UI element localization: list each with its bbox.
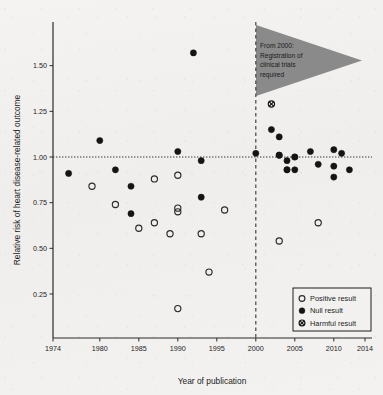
x-tick-label-1995: 1995 [209,344,225,353]
data-point-open-circle [89,183,95,189]
data-point-filled-circle [253,150,259,156]
data-point-open-circle [167,231,173,237]
data-point-cross-circle [268,101,274,107]
annotation-line-1: Registration of [260,52,303,60]
data-point-filled-circle [276,134,282,140]
annotation-line-0: From 2000: [260,42,294,49]
data-point-filled-circle [268,126,274,132]
data-point-filled-circle [175,148,181,154]
x-tick-label-1980: 1980 [92,344,108,353]
legend-marker-filled-circle [299,308,305,314]
legend-label-2: Harmful result [310,319,356,328]
annotation-line-2: clinical trials [260,61,296,68]
x-tick-label-2005: 2005 [287,344,303,353]
x-tick-label-2000: 2000 [248,344,264,353]
x-axis-title: Year of publication [178,376,247,386]
y-axis-title: Relative risk of heart disease-related o… [12,94,22,265]
data-point-open-circle [222,207,228,213]
x-tick-label-1985: 1985 [131,344,147,353]
legend-label-1: Null result [310,306,343,315]
data-point-filled-circle [128,211,134,217]
data-point-filled-circle [97,137,103,143]
data-point-filled-circle [66,170,72,176]
data-point-filled-circle [128,183,134,189]
data-point-filled-circle [112,167,118,173]
data-point-filled-circle [346,167,352,173]
x-tick-label-2014: 2014 [357,344,373,353]
data-point-filled-circle [315,161,321,167]
data-point-filled-circle [331,163,337,169]
data-point-filled-circle [292,167,298,173]
y-tick-label-0.50: 0.50 [33,244,47,253]
data-point-filled-circle [339,150,345,156]
data-point-open-circle [198,231,204,237]
y-tick-label-1.50: 1.50 [33,61,47,70]
annotation-line-3: required [260,71,285,79]
data-point-filled-circle [198,158,204,164]
data-point-filled-circle [284,158,290,164]
data-point-open-circle [206,269,212,275]
y-tick-label-1.00: 1.00 [33,153,47,162]
data-point-filled-circle [331,174,337,180]
data-point-open-circle [175,172,181,178]
data-point-open-circle [175,306,181,312]
data-point-open-circle [315,220,321,226]
y-tick-label-1.25: 1.25 [33,107,47,116]
scatter-plot: From 2000:Registration ofclinical trials… [0,0,383,395]
y-tick-label-0.75: 0.75 [33,198,47,207]
data-point-filled-circle [307,148,313,154]
legend-label-0: Positive result [310,294,356,303]
data-point-filled-circle [276,152,282,158]
x-tick-label-1990: 1990 [170,344,186,353]
data-point-filled-circle [284,167,290,173]
data-point-filled-circle [292,154,298,160]
chart-figure: From 2000:Registration ofclinical trials… [0,0,383,395]
data-point-filled-circle [198,194,204,200]
data-point-open-circle [136,225,142,231]
data-point-open-circle [151,220,157,226]
data-point-open-circle [276,238,282,244]
x-tick-label-1974: 1974 [45,344,61,353]
data-point-open-circle [151,176,157,182]
x-tick-label-2010: 2010 [326,344,342,353]
data-point-open-circle [112,201,118,207]
data-point-filled-circle [331,147,337,153]
y-tick-label-0.25: 0.25 [33,290,47,299]
data-point-filled-circle [190,50,196,56]
